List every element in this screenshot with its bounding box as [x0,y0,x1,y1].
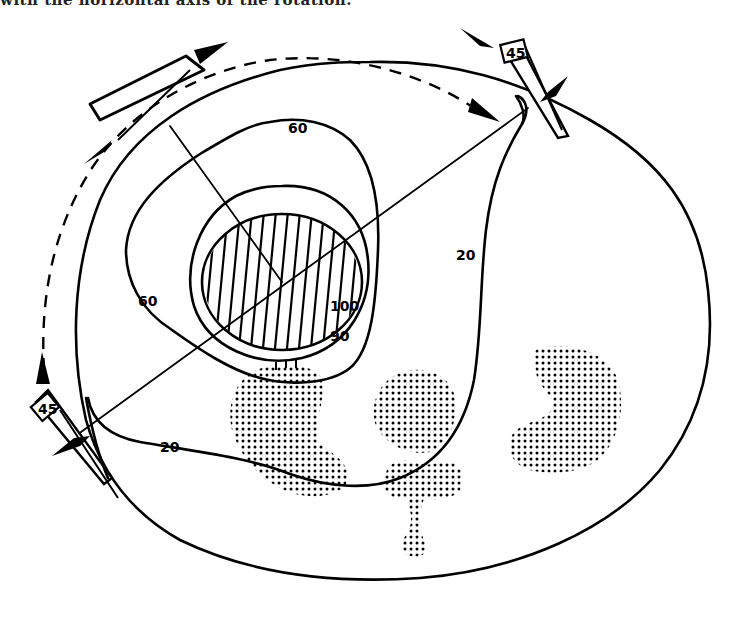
label-iso-90: 90 [330,328,350,344]
arc-arrow-end-icon [468,98,500,122]
wedge-label-top-right: 45 [506,45,525,61]
wedge-beam-left: 45 [31,390,118,498]
wedge-beam-top-right: 45 [460,28,568,138]
organ-stippled-left [230,365,348,496]
label-iso-100: 100 [330,298,359,314]
organ-stippled-vertebra [374,370,463,557]
isodose-diagram: 45 45 60 60 20 20 100 90 [0,0,735,630]
tumor-hatching [200,190,374,380]
arc-arrow-left-icon [36,352,50,384]
label-iso-60-top: 60 [288,120,308,136]
beam-tail-arrow-icon [460,28,494,48]
organ-stippled-kidney [509,346,621,472]
label-iso-20-bottom: 20 [160,439,180,455]
body-outline [76,62,710,580]
label-iso-20-right: 20 [456,247,476,263]
radius-line [170,126,282,282]
direction-arrow-icon [194,42,228,64]
label-iso-60-left: 60 [138,293,158,309]
wedge-label-left: 45 [38,401,57,417]
